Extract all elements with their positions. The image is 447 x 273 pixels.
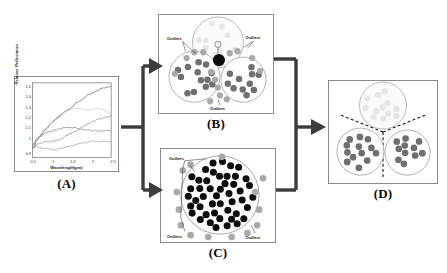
data-point — [224, 173, 231, 180]
data-point — [368, 145, 375, 152]
outlier-point — [215, 84, 221, 90]
data-point — [212, 224, 219, 231]
x-tick: 2 — [92, 159, 94, 164]
data-point — [375, 92, 381, 98]
data-point — [216, 215, 223, 222]
data-point — [184, 90, 190, 96]
chart-area: 1.5 1.4 1.3 1.2 1.1 1 0.9 0.5 1 1.5 2 2.… — [15, 77, 118, 171]
data-point — [344, 149, 351, 156]
data-point — [380, 115, 386, 121]
data-point — [393, 113, 399, 119]
outlier-point — [249, 55, 255, 61]
data-point — [207, 219, 214, 226]
panel-c-svg: Outliers Outliers Outliers — [161, 149, 275, 242]
data-point — [395, 145, 402, 152]
data-point — [416, 138, 423, 145]
data-point — [227, 71, 233, 77]
data-point — [249, 71, 255, 77]
data-point — [198, 77, 204, 83]
data-point — [236, 76, 242, 82]
outlier-point — [174, 189, 181, 196]
cluster-circle-main — [181, 156, 259, 234]
data-point — [248, 64, 254, 70]
figure-canvas: 1.5 1.4 1.3 1.2 1.1 1 0.9 0.5 1 1.5 2 2.… — [0, 0, 447, 273]
x-axis-label: Wavelength(µm) — [15, 165, 118, 170]
data-point — [195, 59, 201, 65]
data-point — [364, 157, 371, 164]
data-point — [373, 150, 380, 157]
data-point — [401, 160, 408, 167]
data-point — [243, 175, 250, 182]
data-point — [210, 169, 217, 176]
data-point — [204, 76, 210, 82]
data-point — [356, 143, 363, 150]
data-point — [358, 150, 365, 157]
panel-c-letter: (C) — [160, 245, 276, 261]
data-point — [235, 164, 242, 171]
outlier-point — [208, 69, 214, 75]
data-point — [203, 177, 210, 184]
panel-d-partitioned — [328, 80, 438, 184]
arrowhead-to-d — [311, 119, 326, 135]
y-tick: 1.2 — [25, 115, 31, 120]
outlier-point — [256, 206, 263, 213]
data-point — [381, 88, 387, 94]
data-point — [187, 185, 194, 192]
outlier-point — [187, 161, 194, 168]
outlier-point — [205, 234, 212, 241]
data-point — [203, 61, 209, 67]
outlier-point — [212, 77, 218, 83]
outlier-point — [234, 48, 240, 54]
data-point — [224, 207, 231, 214]
y-tick: 1.4 — [25, 94, 31, 99]
data-point — [213, 192, 220, 199]
data-point — [210, 160, 217, 167]
data-point — [178, 74, 184, 80]
y-tick: 1 — [29, 135, 31, 140]
data-point — [356, 164, 363, 171]
data-point — [192, 197, 199, 204]
data-point — [197, 216, 204, 223]
y-tick: 1.3 — [25, 104, 31, 109]
data-point — [196, 37, 202, 43]
outlier-point — [228, 234, 235, 241]
data-point — [209, 21, 215, 27]
data-point — [202, 166, 209, 173]
data-point — [228, 216, 235, 223]
outlier-point — [219, 154, 226, 161]
outliers-label-bottomright: Outliers — [245, 235, 261, 240]
data-point — [230, 181, 237, 188]
data-point — [221, 180, 228, 187]
data-point — [203, 211, 210, 218]
data-point — [401, 142, 408, 149]
data-point — [244, 204, 251, 211]
outlier-point — [187, 232, 194, 239]
panel-b-letter: (B) — [158, 116, 274, 132]
data-point — [188, 173, 195, 180]
panel-b-svg: Outliers Outliers Outliers — [159, 15, 273, 113]
data-point — [246, 182, 253, 189]
data-point — [393, 138, 400, 145]
data-point — [370, 114, 376, 120]
data-point — [209, 200, 216, 207]
outlier-point — [257, 68, 263, 74]
panel-d-svg — [329, 81, 437, 183]
y-tick: 1.1 — [25, 125, 31, 130]
outliers-label-left: Outliers — [167, 36, 183, 41]
x-tick: 1 — [52, 159, 54, 164]
data-point — [217, 186, 224, 193]
data-point — [234, 220, 241, 227]
outlier-point — [252, 189, 259, 196]
outlier-point — [172, 71, 178, 77]
outliers-label-right: Outliers — [245, 35, 261, 40]
data-point — [350, 154, 357, 161]
data-point — [185, 193, 192, 200]
outlier-point — [183, 55, 189, 61]
x-tick: 1.5 — [70, 159, 76, 164]
data-point — [402, 150, 409, 157]
data-point — [343, 142, 350, 149]
data-point — [251, 87, 257, 93]
outliers-label-bottomleft: Outliers — [167, 234, 183, 239]
data-point — [385, 110, 391, 116]
data-point — [237, 188, 244, 195]
